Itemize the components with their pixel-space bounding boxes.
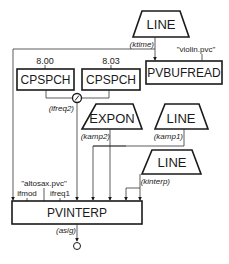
pvinterp-node: PVINTERP <box>12 201 142 224</box>
pvbufread-label: PVBUFREAD <box>147 66 221 80</box>
kamp1-var-label: (kamp1) <box>154 132 184 141</box>
line-kamp1-label: LINE <box>167 111 196 126</box>
line-ktime-node: LINE <box>133 11 189 37</box>
cpspch2-label: CPSPCH <box>86 73 136 87</box>
cpspch1-to-divide-wire <box>46 90 73 98</box>
expon-label: EXPON <box>89 111 135 126</box>
line-kinterp-label: LINE <box>158 155 187 170</box>
pvbufread-node: PVBUFREAD <box>146 61 222 84</box>
line-kamp1-node: LINE <box>155 104 208 129</box>
cpspch2-node: CPSPCH <box>82 69 140 90</box>
ifreq1-input-label: ifreq1 <box>50 189 71 198</box>
asig-var-label: (asig) <box>56 226 76 235</box>
kinterp-branch-wire <box>126 188 140 200</box>
cpspch1-input-label: 8.00 <box>36 56 54 66</box>
cpspch2-to-divide-wire <box>81 90 109 98</box>
line-kinterp-node: LINE <box>142 150 201 174</box>
kinterp-var-label: (kinterp) <box>141 177 171 186</box>
divide-node <box>73 94 82 103</box>
cpspch1-label: CPSPCH <box>20 73 70 87</box>
ifmod-input-label: ifmod <box>17 189 37 198</box>
violin-param-label: "violin.pvc" <box>177 45 216 54</box>
ifreq2-var-label: (ifreq2) <box>49 104 75 113</box>
altosax-param-label: "altosax.pvc" <box>21 179 67 188</box>
expon-node: EXPON <box>82 104 142 129</box>
pvinterp-signal-flow-diagram: LINE (ktime) PVBUFREAD "violin.pvc" 8.00… <box>0 0 229 264</box>
cpspch2-input-label: 8.03 <box>102 56 120 66</box>
kamp2-var-label: (kamp2) <box>81 132 111 141</box>
ktime-var-label: (ktime) <box>130 40 155 49</box>
line-ktime-label: LINE <box>147 17 176 32</box>
output-terminal-icon <box>74 243 81 250</box>
cpspch1-node: CPSPCH <box>17 69 74 90</box>
pvinterp-label: PVINTERP <box>47 206 107 220</box>
